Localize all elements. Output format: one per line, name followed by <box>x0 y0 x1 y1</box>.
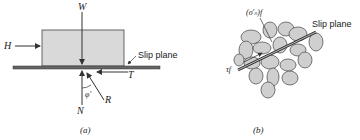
grain <box>280 59 296 71</box>
grain <box>282 71 298 85</box>
label-tau: τf <box>226 65 233 74</box>
label-T: T <box>128 69 135 80</box>
label-slip-plane-a: Slip plane <box>138 50 178 60</box>
label-R: R <box>104 94 111 105</box>
label-normal-stress: (σ'ₙ)f <box>246 8 264 17</box>
grain <box>261 82 275 98</box>
caption-a: (a) <box>80 125 91 135</box>
grain <box>253 42 271 54</box>
caption-b: (b) <box>253 125 264 135</box>
panel-a: W H Slip plane T N R φ' (a) <box>3 1 178 135</box>
figure: W H Slip plane T N R φ' (a) (σ'ₙ)f Slip … <box>0 0 360 140</box>
grain <box>298 52 312 68</box>
slip-plane-leader-a <box>128 56 136 64</box>
label-N: N <box>76 105 85 116</box>
label-phi: φ' <box>85 90 91 99</box>
friction-angle-arc <box>82 85 91 88</box>
block <box>42 30 124 66</box>
label-slip-plane-b: Slip plane <box>312 19 352 29</box>
grain <box>263 22 277 38</box>
label-H: H <box>3 40 12 51</box>
grain <box>249 68 263 84</box>
panel-b <box>234 18 323 98</box>
label-W: W <box>78 1 88 12</box>
grain <box>234 54 244 66</box>
slip-plane-bar <box>13 66 160 69</box>
